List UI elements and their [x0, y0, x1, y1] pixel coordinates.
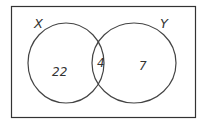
region-x-only: 22	[52, 65, 67, 79]
region-y-only: 7	[139, 59, 147, 73]
set-y-label: Y	[160, 16, 169, 31]
set-x-label: X	[33, 16, 44, 31]
region-intersection: 4	[97, 56, 105, 70]
venn-diagram: X Y 22 4 7	[0, 0, 208, 125]
